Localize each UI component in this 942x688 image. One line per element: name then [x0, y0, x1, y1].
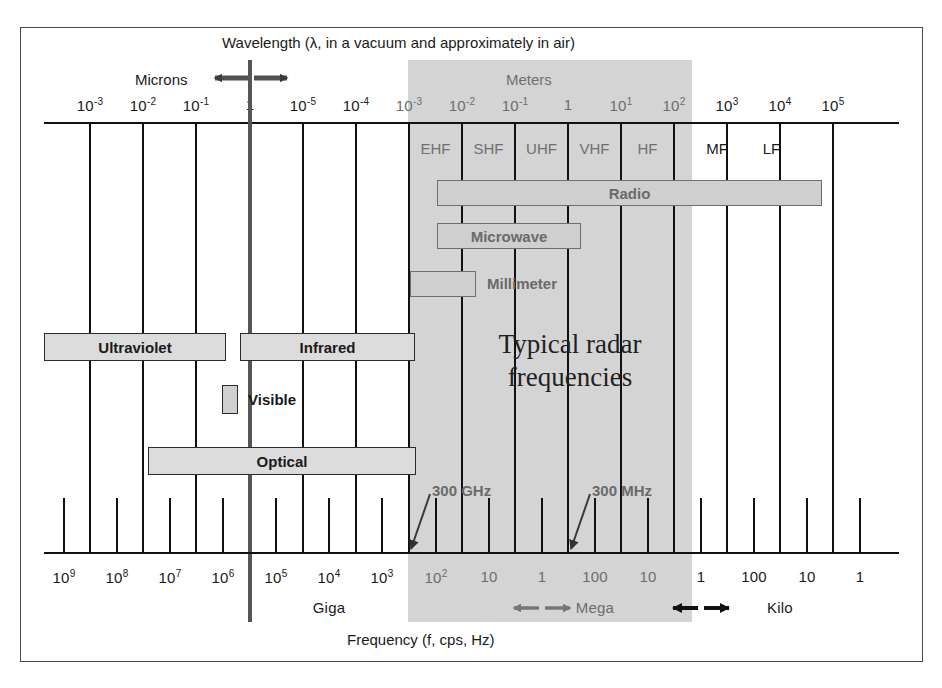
- radar-label-line2: frequencies: [420, 361, 720, 394]
- frequency-tick-label-4: 105: [246, 568, 306, 586]
- frequency-tick-label-6: 103: [352, 568, 412, 586]
- frequency-tick-label-2: 107: [140, 568, 200, 586]
- frequency-tick-label-14: 10: [777, 568, 837, 585]
- spectrum-bar-label-millimeter: Millimeter: [487, 275, 557, 292]
- frequency-tick-label-5: 104: [299, 568, 359, 586]
- wavelength-tick-label-7: 10-2: [432, 96, 492, 114]
- top-axis-title: Wavelength (λ, in a vacuum and approxima…: [222, 34, 575, 51]
- bottom-axis-title: Frequency (f, cps, Hz): [347, 631, 495, 648]
- radar-region-label: Typical radar frequencies: [420, 328, 720, 394]
- frequency-tick-8: [488, 498, 490, 552]
- wavelength-tick-label-14: 105: [803, 96, 863, 114]
- spectrum-bar-ultraviolet: Ultraviolet: [44, 333, 226, 361]
- spectrum-bar-visible: [222, 385, 238, 414]
- wavelength-tick-label-12: 103: [697, 96, 757, 114]
- frequency-tick-11: [647, 498, 649, 552]
- wavelength-tick-label-11: 102: [644, 96, 704, 114]
- band-cell-uhf: UHF: [515, 122, 568, 174]
- frequency-tick-9: [541, 498, 543, 552]
- wavelength-tick-label-10: 101: [591, 96, 651, 114]
- spectrum-bar-optical: Optical: [148, 447, 416, 475]
- frequency-tick-label-11: 10: [618, 568, 678, 585]
- gridline-14: [832, 122, 834, 552]
- prefix-label-giga: Giga: [289, 599, 369, 616]
- wavelength-tick-label-4: 10-5: [273, 96, 333, 114]
- frequency-tick-12: [700, 498, 702, 552]
- wavelength-tick-label-6: 10-3: [379, 96, 439, 114]
- band-cell-lf: LF: [745, 122, 798, 174]
- frequency-tick-4: [275, 498, 277, 552]
- frequency-tick-15: [859, 498, 861, 552]
- frequency-tick-7: [435, 498, 437, 552]
- spectrum-bar-microwave: Microwave: [437, 223, 581, 249]
- frequency-tick-label-3: 106: [193, 568, 253, 586]
- spectrum-bar-radio: Radio: [437, 180, 822, 206]
- frequency-tick-label-0: 109: [34, 568, 94, 586]
- frequency-tick-3: [222, 498, 224, 552]
- band-cell-shf: SHF: [462, 122, 515, 174]
- wavelength-tick-label-1: 10-2: [113, 96, 173, 114]
- band-cell-mf: MF: [692, 122, 742, 174]
- band-cell-ehf: EHF: [409, 122, 462, 174]
- prefix-label-kilo: Kilo: [740, 599, 820, 616]
- wavelength-tick-label-0: 10-3: [60, 96, 120, 114]
- frequency-tick-13: [753, 498, 755, 552]
- annotation-label-300-mhz: 300 MHz: [592, 482, 652, 499]
- frequency-tick-label-1: 108: [87, 568, 147, 586]
- bottom-axis-line: [44, 552, 899, 554]
- spectrum-bar-infrared: Infrared: [240, 333, 415, 361]
- frequency-tick-label-8: 10: [459, 568, 519, 585]
- wavelength-tick-label-13: 104: [750, 96, 810, 114]
- frequency-tick-label-15: 1: [830, 568, 890, 585]
- frequency-tick-2: [169, 498, 171, 552]
- band-cell-vhf: VHF: [568, 122, 621, 174]
- frequency-tick-14: [806, 498, 808, 552]
- wavelength-tick-label-9: 1: [538, 96, 598, 113]
- annotation-label-300-ghz: 300 GHz: [432, 482, 491, 499]
- frequency-tick-label-7: 102: [406, 568, 466, 586]
- frequency-tick-label-10: 100: [565, 568, 625, 585]
- band-cell-hf: HF: [621, 122, 674, 174]
- unit-label-microns: Microns: [135, 71, 188, 88]
- radar-label-line1: Typical radar: [420, 328, 720, 361]
- wavelength-tick-label-5: 10-4: [326, 96, 386, 114]
- spectrum-chart: Wavelength (λ, in a vacuum and approxima…: [0, 0, 942, 688]
- frequency-tick-1: [116, 498, 118, 552]
- frequency-tick-6: [381, 498, 383, 552]
- unit-label-meters: Meters: [506, 71, 552, 88]
- frequency-tick-label-12: 1: [671, 568, 731, 585]
- frequency-tick-0: [63, 498, 65, 552]
- spectrum-bar-millimeter: [410, 271, 476, 297]
- frequency-tick-5: [328, 498, 330, 552]
- prefix-label-mega: Mega: [555, 599, 635, 616]
- wavelength-tick-label-2: 10-1: [166, 96, 226, 114]
- spectrum-bar-label-visible: Visible: [248, 391, 296, 408]
- frequency-tick-label-9: 1: [512, 568, 572, 585]
- frequency-tick-label-13: 100: [724, 568, 784, 585]
- wavelength-tick-label-8: 10-1: [485, 96, 545, 114]
- frequency-tick-10: [594, 498, 596, 552]
